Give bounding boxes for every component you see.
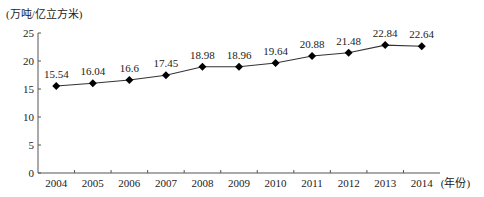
y-tick-label: 25 bbox=[23, 27, 35, 39]
data-point-marker bbox=[235, 63, 243, 71]
x-tick-label: 2006 bbox=[118, 177, 141, 189]
data-point-marker bbox=[308, 52, 316, 60]
data-label: 16.04 bbox=[80, 65, 105, 77]
x-tick-label: 2004 bbox=[45, 177, 68, 189]
data-label: 19.64 bbox=[263, 45, 288, 57]
data-point-marker bbox=[345, 49, 353, 57]
data-label: 15.54 bbox=[44, 68, 69, 80]
data-label: 22.64 bbox=[409, 28, 434, 40]
data-point-marker bbox=[162, 71, 170, 79]
data-point-marker bbox=[89, 79, 97, 87]
data-label: 22.84 bbox=[373, 27, 398, 39]
x-tick-label: 2009 bbox=[228, 177, 251, 189]
data-point-marker bbox=[52, 82, 60, 90]
x-tick-label: 2014 bbox=[411, 177, 434, 189]
data-label: 21.48 bbox=[336, 35, 361, 47]
y-tick-label: 0 bbox=[29, 167, 35, 179]
data-label: 18.96 bbox=[227, 49, 252, 61]
data-point-marker bbox=[198, 63, 206, 71]
data-point-marker bbox=[418, 42, 426, 50]
data-label: 16.6 bbox=[120, 62, 140, 74]
x-tick-label: 2008 bbox=[191, 177, 214, 189]
y-tick-label: 5 bbox=[29, 139, 35, 151]
y-tick-label: 20 bbox=[23, 55, 35, 67]
x-tick-label: 2005 bbox=[82, 177, 105, 189]
x-tick-label: 2012 bbox=[338, 177, 360, 189]
x-axis-label: (年份) bbox=[441, 176, 471, 190]
y-tick-label: 10 bbox=[23, 111, 35, 123]
data-label: 20.88 bbox=[300, 38, 325, 50]
data-point-marker bbox=[381, 41, 389, 49]
x-tick-label: 2010 bbox=[265, 177, 288, 189]
data-point-marker bbox=[272, 59, 280, 67]
y-tick-label: 15 bbox=[23, 83, 35, 95]
data-point-marker bbox=[125, 76, 133, 84]
x-tick-label: 2007 bbox=[155, 177, 178, 189]
line-chart: (万吨/亿立方米)0510152025200420052006200720082… bbox=[0, 0, 484, 197]
data-label: 17.45 bbox=[154, 57, 179, 69]
x-tick-label: 2013 bbox=[374, 177, 397, 189]
data-label: 18.98 bbox=[190, 49, 215, 61]
y-axis-label: (万吨/亿立方米) bbox=[6, 7, 83, 21]
x-tick-label: 2011 bbox=[301, 177, 323, 189]
